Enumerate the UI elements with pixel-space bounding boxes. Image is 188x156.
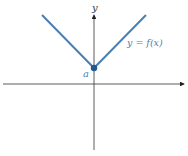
curve-label: y = f(x) <box>126 37 163 48</box>
function-graph: y a y = f(x) <box>0 0 188 156</box>
y-axis-label: y <box>91 2 98 13</box>
vertex-point <box>91 65 97 71</box>
vertex-label: a <box>83 68 89 79</box>
